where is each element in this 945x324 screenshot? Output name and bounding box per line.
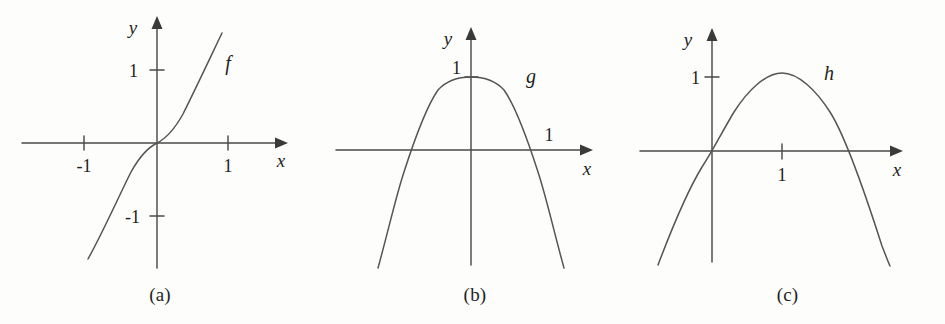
panel-caption-a: (a): [0, 284, 320, 306]
curve-f: [88, 33, 222, 259]
x-tick-label-minus1-a: -1: [77, 156, 92, 176]
x-tick-label-1-c: 1: [778, 165, 787, 185]
graph-panel-c: y x 1 1 h (c): [630, 0, 945, 324]
figure-three-graphs: y x 1 -1 -1 1 f (a) y x 1 1 g: [0, 0, 945, 324]
x-axis-label-b: x: [582, 158, 592, 179]
y-axis-label-c: y: [682, 29, 693, 50]
function-label-g: g: [526, 65, 536, 88]
panel-caption-b: (b): [320, 284, 630, 306]
panel-caption-c: (c): [630, 284, 945, 306]
x-axis-label-c: x: [892, 159, 902, 180]
graph-panel-a: y x 1 -1 -1 1 f (a): [0, 0, 320, 324]
graph-b-svg: y x 1 1 g: [320, 0, 630, 290]
y-tick-label-1-a: 1: [129, 61, 138, 81]
function-label-h: h: [824, 62, 834, 84]
y-axis-arrow-b: [466, 27, 477, 40]
y-axis-arrow-a: [152, 16, 163, 29]
x-axis-label-a: x: [276, 150, 286, 171]
x-axis-arrow-a: [275, 138, 288, 149]
y-axis-arrow-c: [707, 28, 718, 41]
graph-panel-b: y x 1 1 g (b): [320, 0, 630, 324]
x-tick-label-1-a: 1: [224, 156, 233, 176]
y-axis-label-b: y: [442, 28, 453, 49]
y-axis-label-a: y: [127, 17, 138, 38]
graph-a-svg: y x 1 -1 -1 1 f: [0, 0, 320, 290]
x-axis-arrow-c: [890, 146, 903, 157]
curve-h: [658, 73, 890, 266]
x-axis-arrow-b: [580, 145, 593, 156]
x-tick-label-1-b: 1: [545, 125, 554, 145]
y-tick-label-1-b: 1: [452, 58, 461, 78]
graph-c-svg: y x 1 1 h: [630, 0, 945, 290]
y-tick-label-1-c: 1: [691, 68, 700, 88]
y-tick-label-minus1-a: -1: [125, 207, 140, 227]
function-label-f: f: [225, 52, 233, 75]
